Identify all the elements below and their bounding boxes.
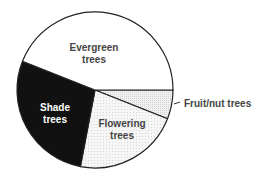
fruit-leader-line <box>174 102 180 104</box>
pie-slices <box>17 12 173 168</box>
label-flowering-line1: Flowering <box>98 118 145 129</box>
label-flowering-line2: trees <box>110 130 134 141</box>
label-evergreen-line1: Evergreen <box>70 42 119 53</box>
label-shade-line2: trees <box>43 114 67 125</box>
label-shade-line1: Shade <box>40 102 70 113</box>
label-evergreen-line2: trees <box>82 54 106 65</box>
label-fruit-nut: Fruit/nut trees <box>184 98 252 109</box>
pie-chart: Evergreen trees Shade trees Flowering tr… <box>0 0 258 184</box>
